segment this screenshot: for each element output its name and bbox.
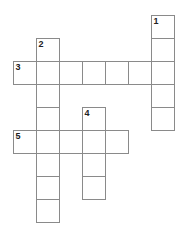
- crossword-cell[interactable]: [36, 130, 60, 154]
- crossword-cell[interactable]: [105, 130, 129, 154]
- crossword-cell[interactable]: [82, 153, 106, 177]
- crossword-cell[interactable]: [151, 38, 175, 62]
- crossword-cell[interactable]: [36, 153, 60, 177]
- crossword-puzzle: 12345: [0, 0, 186, 241]
- cell-number-2: 2: [39, 39, 44, 49]
- crossword-cell[interactable]: [82, 130, 106, 154]
- cell-number-4: 4: [85, 108, 90, 118]
- crossword-cell[interactable]: 2: [36, 38, 60, 62]
- crossword-cell[interactable]: 3: [13, 61, 37, 85]
- crossword-cell[interactable]: 4: [82, 107, 106, 131]
- crossword-cell[interactable]: [151, 84, 175, 108]
- crossword-cell[interactable]: [128, 61, 152, 85]
- crossword-cell[interactable]: [151, 61, 175, 85]
- crossword-cell[interactable]: [36, 199, 60, 223]
- cell-number-1: 1: [154, 16, 159, 26]
- crossword-cell[interactable]: [36, 61, 60, 85]
- crossword-cell[interactable]: [36, 176, 60, 200]
- crossword-cell[interactable]: [82, 176, 106, 200]
- crossword-cell[interactable]: 5: [13, 130, 37, 154]
- crossword-cell[interactable]: [59, 130, 83, 154]
- crossword-cell[interactable]: [82, 61, 106, 85]
- cell-number-3: 3: [16, 62, 21, 72]
- crossword-cell[interactable]: [105, 61, 129, 85]
- crossword-cell[interactable]: [36, 107, 60, 131]
- crossword-cell[interactable]: 1: [151, 15, 175, 39]
- crossword-cell[interactable]: [151, 107, 175, 131]
- crossword-cell[interactable]: [59, 61, 83, 85]
- cell-number-5: 5: [16, 131, 21, 141]
- crossword-cell[interactable]: [36, 84, 60, 108]
